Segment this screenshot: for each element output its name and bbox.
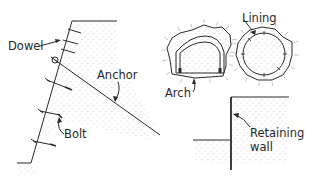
arch-arrowhead-icon (192, 78, 196, 84)
retaining-label-line1: Retaining (250, 126, 304, 140)
retaining-wall-section: Retaining wall (193, 97, 304, 170)
anchor-label: Anchor (97, 68, 138, 82)
dowel-label: Dowel (8, 39, 44, 53)
circular-tunnel: Lining (229, 11, 299, 86)
retaining-label-line2: wall (250, 140, 273, 154)
reinforcement-diagram: Dowel Anchor Bolt Arch Lining (0, 0, 315, 182)
arch-label: Arch (165, 86, 191, 100)
dowel-arrowhead-icon (55, 39, 61, 43)
arch-tunnel: Arch (161, 19, 237, 100)
slope-section: Dowel Anchor Bolt (8, 21, 160, 175)
lower-soil-fill (195, 141, 231, 163)
bolt-label: Bolt (64, 127, 87, 141)
lining-label: Lining (242, 11, 277, 25)
